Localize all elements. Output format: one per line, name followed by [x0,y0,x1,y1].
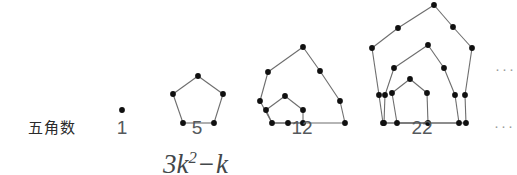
pentagon-dot [269,120,275,126]
pentagon-dot [257,98,263,104]
pentagon-dot [119,107,125,113]
pentagon-dot [317,68,323,74]
formula-exponent: 2 [188,148,196,167]
pentagon-dot [170,91,176,97]
formula-coefficient: 3 [163,149,177,175]
pentagon-dot [282,93,288,99]
edges-pentagonal-22 [372,5,472,123]
pentagon-edge [465,95,466,123]
pentagon-edge [320,71,340,101]
pentagon-dot [407,76,413,82]
pentagon-dot [337,98,343,104]
pentagon-edge [392,79,410,93]
formula-term: k [216,149,228,175]
pentagon-dot [376,92,382,98]
pentagon-edge [372,48,379,95]
pentagon-edges-layer [173,5,472,123]
nodes-pentagonal-1 [119,107,125,113]
ellipsis-count-continuation: ··· [494,117,515,134]
pentagon-edge [455,95,459,123]
pentagon-dot [394,120,400,126]
pentagon-dot [265,69,271,75]
pentagon-dot [342,120,348,126]
pentagonal-number-formula: 3k2−k [163,148,228,175]
pentagon-dot [180,120,186,126]
pentagon-dot-diagram [0,0,517,175]
pentagon-edge [465,48,472,95]
pentagonal-numbers-figure: 五角数 1 5 12 22 ··· ··· 3k2−k [0,0,517,175]
pentagon-edge [372,28,398,48]
pentagon-dot [300,44,306,50]
count-label-stage-2: 5 [192,117,203,139]
pentagon-dot [463,120,469,126]
pentagon-edge [266,96,285,110]
pentagon-dot [452,92,458,98]
pentagon-dot [382,92,388,98]
formula-variable: k [177,149,189,175]
pentagon-edge [434,5,453,27]
ellipsis-diagram-continuation: ··· [495,60,516,77]
pentagon-edge [173,76,198,94]
pentagon-dot [425,42,431,48]
pentagon-dot [391,65,397,71]
pentagon-dot [195,73,201,79]
pentagon-edge [303,47,320,71]
pentagon-dot [389,90,395,96]
count-label-stage-1: 1 [117,117,128,139]
pentagon-dot [462,92,468,98]
pentagon-edge [340,101,345,123]
pentagon-dot [424,90,430,96]
pentagon-dot [285,120,291,126]
pentagon-edge [379,95,383,123]
pentagon-edge [428,45,444,68]
pentagon-edge [384,95,385,123]
pentagon-edge [173,94,183,123]
pentagon-dot [263,107,269,113]
pentagon-dot [395,25,401,31]
pentagon-edge [268,47,303,72]
pentagon-dot [441,65,447,71]
count-label-stage-4: 22 [411,117,432,139]
pentagon-edge [453,27,472,48]
pentagon-dot [369,45,375,51]
edges-pentagonal-5 [173,76,223,123]
row-label-pentagonal-numbers: 五角数 [28,116,76,137]
count-label-stage-3: 12 [291,117,312,139]
pentagon-edge [260,72,268,101]
pentagon-dot [450,24,456,30]
pentagon-edge [410,79,427,93]
pentagon-dot [300,107,306,113]
pentagon-edge [394,45,428,68]
formula-operator: − [197,149,216,175]
pentagon-edge [198,76,223,94]
pentagon-edge [285,96,303,110]
pentagon-edge [392,93,397,123]
pentagon-dot [431,2,437,8]
pentagon-dot [469,45,475,51]
pentagon-dot [220,91,226,97]
pentagon-edge [214,94,223,123]
pentagon-nodes-layer [119,2,475,126]
pentagon-dot [380,120,386,126]
pentagon-edge [444,68,455,95]
pentagon-edge [398,5,434,28]
pentagon-dot [211,120,217,126]
pentagon-dot [456,120,462,126]
